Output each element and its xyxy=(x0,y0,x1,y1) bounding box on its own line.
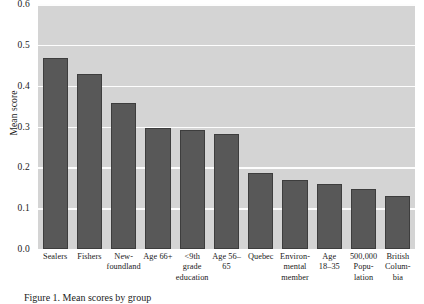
bar xyxy=(214,134,239,249)
y-tick-label: 0.2 xyxy=(0,162,30,172)
bar xyxy=(111,103,136,249)
x-tick-label-line: bia xyxy=(378,273,418,283)
x-tick-label-line: British xyxy=(378,252,418,262)
bar xyxy=(351,189,376,249)
y-tick-label: 0.3 xyxy=(0,122,30,132)
x-tick-label-line: 65 xyxy=(206,262,246,272)
x-tick-label: BritishColum-bia xyxy=(378,252,418,283)
x-tick-label-line: education xyxy=(172,273,212,283)
y-tick-label: 0.4 xyxy=(0,81,30,91)
bar xyxy=(248,173,273,249)
figure-caption: Figure 1. Mean scores by group xyxy=(24,292,416,304)
y-tick-label: 0.5 xyxy=(0,40,30,50)
y-tick-label: 0.1 xyxy=(0,203,30,213)
bar xyxy=(145,128,170,249)
bar xyxy=(180,130,205,249)
bar xyxy=(282,180,307,249)
plot-panel xyxy=(38,4,415,249)
bar xyxy=(43,58,68,249)
y-tick-label: 0.0 xyxy=(0,244,30,254)
y-axis-tick-labels: 0.00.10.20.30.40.50.6 xyxy=(0,0,34,260)
y-tick-label: 0.6 xyxy=(0,0,30,9)
bar xyxy=(385,196,410,249)
x-tick-label-line: Colum- xyxy=(378,262,418,272)
x-tick-label-line: member xyxy=(275,273,315,283)
bar xyxy=(317,184,342,249)
bars-layer xyxy=(38,4,415,249)
x-tick-label-line: foundland xyxy=(104,262,144,272)
bar xyxy=(77,74,102,249)
